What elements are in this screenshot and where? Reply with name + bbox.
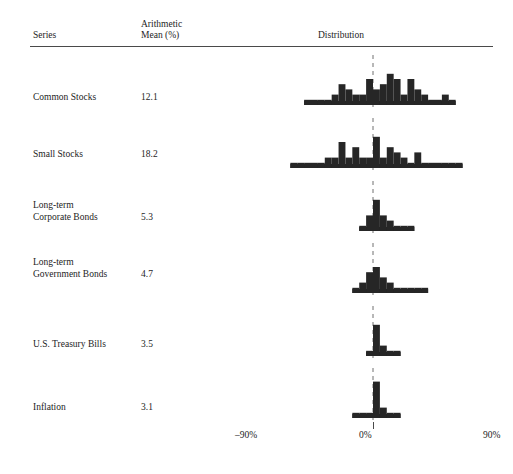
series-arithmetic-mean: 12.1	[141, 92, 158, 104]
histogram-bar	[359, 95, 366, 105]
series-label: Inflation	[33, 402, 66, 414]
histogram-bar	[366, 158, 373, 168]
histogram-bar	[339, 142, 346, 168]
histogram-bar	[407, 79, 414, 105]
histogram-bar	[380, 346, 387, 356]
histogram-bar	[380, 84, 387, 105]
histogram-bar	[401, 158, 408, 168]
histogram-bar	[414, 152, 421, 168]
distribution-histogram	[230, 368, 513, 420]
distribution-histogram	[230, 181, 513, 233]
histogram-bar	[394, 413, 401, 418]
header-rule	[30, 46, 493, 47]
histogram-bar	[421, 95, 428, 105]
histogram-bar	[421, 163, 428, 168]
histogram-bar	[304, 163, 311, 168]
histogram-bar	[373, 325, 380, 356]
histogram-bar	[414, 288, 421, 293]
histogram-bar	[449, 163, 456, 168]
histogram-bar	[373, 137, 380, 168]
axis-tick-label: 90%	[483, 430, 500, 440]
histogram-bar	[394, 79, 401, 105]
histogram-bar	[407, 163, 414, 168]
distribution-histogram	[230, 243, 513, 295]
histogram-bar	[352, 147, 359, 168]
axis-tick-label: –90%	[235, 430, 257, 440]
histogram-bar	[387, 221, 394, 231]
series-label: Long-term Corporate Bonds	[33, 200, 98, 223]
histogram-bar	[387, 413, 394, 418]
series-label: Common Stocks	[33, 92, 96, 104]
histogram-bar	[359, 413, 366, 418]
histogram-bar	[373, 267, 380, 293]
column-header-arithmetic-mean: Arithmetic Mean (%)	[141, 19, 182, 41]
histogram-bar	[407, 288, 414, 293]
histogram-bar	[366, 272, 373, 293]
series-label: Long-term Government Bonds	[33, 257, 107, 280]
histogram-bar	[373, 200, 380, 231]
histogram-bar	[352, 95, 359, 105]
histogram-bar	[401, 95, 408, 105]
histogram-bar	[297, 163, 304, 168]
distribution-histogram	[230, 306, 513, 358]
histogram-bar	[401, 226, 408, 231]
histogram-bar	[387, 147, 394, 168]
histogram-bar	[394, 226, 401, 231]
column-header-series: Series	[33, 30, 56, 41]
histogram-bar	[290, 163, 297, 168]
histogram-bar	[366, 215, 373, 231]
histogram-bar	[359, 226, 366, 231]
series-label: Small Stocks	[33, 149, 83, 161]
histogram-bar	[345, 89, 352, 105]
histogram-bar	[380, 277, 387, 293]
histogram-bar	[428, 100, 435, 105]
histogram-bar	[387, 283, 394, 293]
returns-distribution-figure: Series Arithmetic Mean (%) Distribution …	[0, 0, 513, 474]
histogram-bar	[352, 288, 359, 293]
histogram-bar	[394, 152, 401, 168]
histogram-bar	[435, 163, 442, 168]
histogram-bar	[359, 283, 366, 293]
histogram-bar	[442, 95, 449, 105]
histogram-bar	[407, 226, 414, 231]
histogram-bar	[366, 351, 373, 356]
column-header-distribution: Distribution	[318, 30, 364, 41]
histogram-bar	[421, 288, 428, 293]
distribution-histogram	[230, 118, 513, 170]
histogram-bar	[332, 158, 339, 168]
histogram-bar	[394, 351, 401, 356]
series-label: U.S. Treasury Bills	[33, 339, 106, 351]
histogram-bar	[318, 163, 325, 168]
series-arithmetic-mean: 4.7	[141, 269, 153, 281]
histogram-bar	[339, 84, 346, 105]
histogram-bar	[373, 382, 380, 418]
histogram-bar	[325, 158, 332, 168]
axis-tick-label: 0%	[359, 430, 372, 440]
histogram-bar	[449, 100, 456, 105]
histogram-bar	[304, 100, 311, 105]
histogram-bar	[352, 413, 359, 418]
histogram-bar	[373, 89, 380, 105]
histogram-bar	[428, 163, 435, 168]
histogram-bar	[414, 89, 421, 105]
histogram-bar	[366, 413, 373, 418]
distribution-histogram	[230, 55, 513, 107]
histogram-bar	[442, 163, 449, 168]
histogram-bar	[318, 100, 325, 105]
histogram-bar	[456, 163, 463, 168]
histogram-bar	[401, 288, 408, 293]
histogram-bar	[345, 158, 352, 168]
histogram-bar	[380, 215, 387, 231]
histogram-bar	[387, 74, 394, 105]
series-arithmetic-mean: 5.3	[141, 212, 153, 224]
histogram-bar	[380, 158, 387, 168]
axis-tick-zero	[373, 422, 374, 429]
series-arithmetic-mean: 3.5	[141, 339, 153, 351]
histogram-bar	[311, 163, 318, 168]
histogram-bar	[311, 100, 318, 105]
series-arithmetic-mean: 18.2	[141, 149, 158, 161]
histogram-bar	[366, 79, 373, 105]
series-arithmetic-mean: 3.1	[141, 402, 153, 414]
histogram-bar	[387, 351, 394, 356]
histogram-bar	[394, 288, 401, 293]
